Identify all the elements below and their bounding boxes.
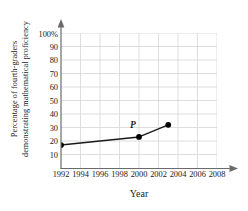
x-tick-label: 2000 bbox=[131, 170, 148, 180]
y-axis-arrowhead bbox=[58, 19, 65, 28]
x-tick-label: 2008 bbox=[209, 170, 226, 180]
math-proficiency-line-chart: Percentage of fourth-graders demonstrati… bbox=[0, 0, 248, 211]
x-tick-label: 1994 bbox=[72, 170, 89, 180]
x-axis-tick-labels: 1992 1994 1996 1998 2000 2002 2004 2006 … bbox=[50, 170, 240, 184]
point-annotation-p: P bbox=[130, 120, 136, 130]
x-tick-label: 2002 bbox=[150, 170, 167, 180]
x-tick-label: 1996 bbox=[92, 170, 109, 180]
x-tick-label: 1998 bbox=[111, 170, 128, 180]
x-tick-label: 1992 bbox=[53, 170, 70, 180]
x-tick-label: 2006 bbox=[189, 170, 206, 180]
x-axis-title: Year bbox=[61, 188, 217, 200]
x-tick-label: 2004 bbox=[170, 170, 187, 180]
